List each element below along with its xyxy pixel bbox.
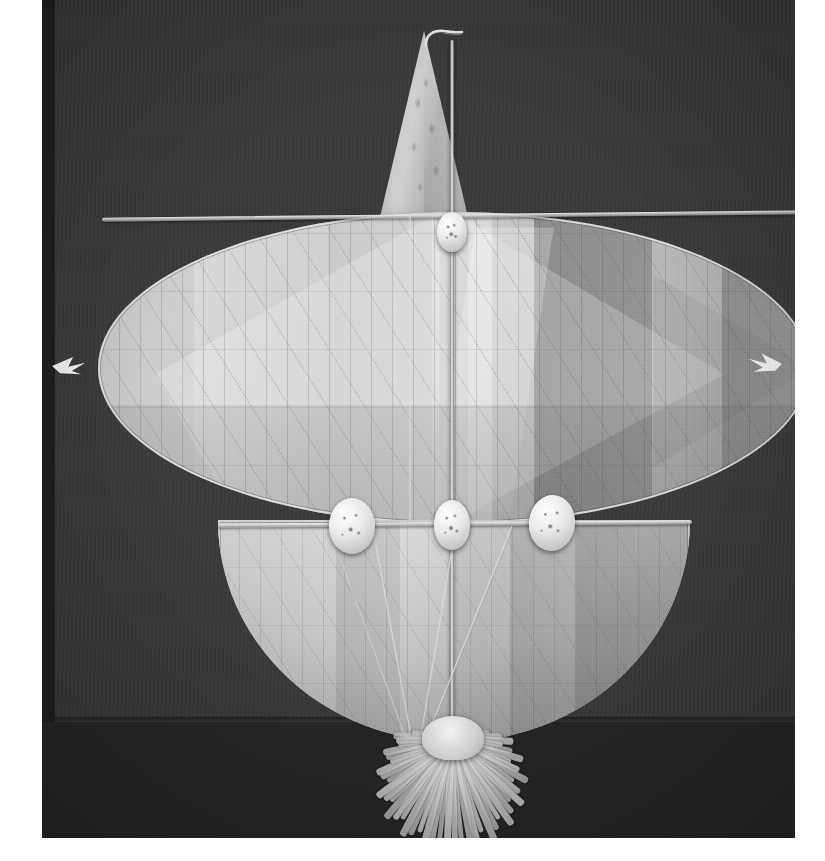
upper-wing [98, 212, 795, 524]
tip-tuft-left-icon [52, 355, 86, 381]
page-margin-left [0, 0, 42, 861]
upper-wing-rim-spar [98, 212, 795, 524]
photo-print [42, 0, 795, 838]
top-fin-markings [380, 31, 468, 217]
kite-photograph-page [0, 0, 825, 861]
rosette-decoration [434, 500, 470, 550]
fin-hook-icon [420, 28, 464, 46]
fringed-tassel [280, 708, 624, 834]
rosette-decoration [437, 212, 467, 252]
spine-spar [450, 40, 454, 740]
rosette-decoration [329, 498, 375, 554]
tassel-core [422, 716, 484, 760]
page-margin-bottom [0, 838, 825, 861]
page-margin-right [795, 0, 825, 861]
kite [42, 0, 795, 838]
